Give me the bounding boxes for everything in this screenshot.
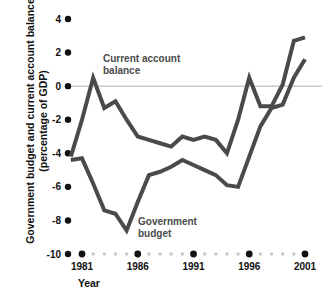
x-tick-label: 1986: [127, 261, 150, 272]
y-tick-label: -6: [52, 181, 61, 192]
y-tick-label: -2: [52, 114, 61, 125]
x-axis-tick-labels: 19811986199119962001: [71, 261, 317, 272]
series-line: [71, 37, 305, 156]
series-line: [71, 59, 305, 230]
y-axis-tick-labels: 420-2-4-6-8-10: [47, 14, 62, 260]
chart-plot-area: 420-2-4-6-8-10 19811986199119962001: [0, 0, 330, 300]
y-tick-label: -10: [47, 249, 62, 260]
y-tick-label: 4: [55, 14, 61, 25]
y-tick-label: 2: [55, 47, 61, 58]
y-tick-label: 0: [55, 81, 61, 92]
x-axis-title: Year: [78, 277, 100, 289]
x-axis-tick-dots: [79, 251, 309, 258]
y-axis-tick-dots: [65, 16, 71, 257]
x-tick-label: 1981: [71, 261, 94, 272]
y-tick-label: -4: [52, 148, 61, 159]
x-tick-label: 1996: [238, 261, 261, 272]
chart-figure: 420-2-4-6-8-10 19811986199119962001 Gove…: [0, 0, 330, 300]
chart-series-lines: [71, 37, 305, 230]
x-tick-label: 2001: [294, 261, 317, 272]
x-tick-label: 1991: [182, 261, 205, 272]
y-tick-label: -8: [52, 215, 61, 226]
